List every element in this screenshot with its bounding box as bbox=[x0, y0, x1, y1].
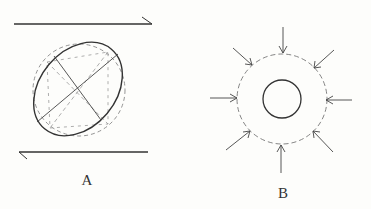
top-shear-arrow bbox=[14, 17, 152, 24]
bottom-shear-arrow bbox=[19, 152, 148, 159]
panel-label-a: A bbox=[82, 172, 93, 189]
panel-b bbox=[210, 27, 352, 173]
compressed-circle bbox=[263, 80, 301, 118]
diagram-canvas bbox=[0, 0, 371, 209]
compression-arrows bbox=[210, 27, 352, 173]
panel-a bbox=[14, 17, 152, 159]
panel-label-b: B bbox=[278, 185, 288, 202]
